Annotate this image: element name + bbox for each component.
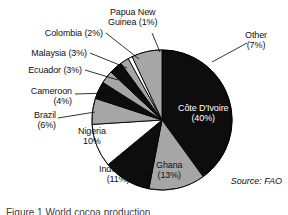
slice-label-nigeria-line2: 10% xyxy=(78,137,106,147)
callout-label-cameroon-line1: Cameroon xyxy=(31,86,72,96)
leader-line-malaysia xyxy=(90,53,127,68)
slice-label-ghana: Ghana (13%) xyxy=(156,161,183,180)
callout-label-brazil: Brazil (6%) xyxy=(6,111,56,130)
slice-label-ghana-line2: (13%) xyxy=(156,171,183,181)
slice-label-nigeria: Nigeria 10% xyxy=(78,127,106,146)
callout-label-brazil-line2: (6%) xyxy=(6,121,56,131)
slice-label-cote-divoire: Côte D'Ivoire (40%) xyxy=(178,104,228,123)
figure-caption: Figure 1 World cocoa production xyxy=(6,207,150,215)
slice-label-cote-divoire-line1: Côte D'Ivoire xyxy=(178,103,228,113)
leader-line-colombia xyxy=(106,33,139,59)
slice-label-indonesia: Indonesia (11%) xyxy=(99,165,137,184)
callout-label-cameroon-line2: (4%) xyxy=(6,97,72,107)
slice-label-ghana-line1: Ghana xyxy=(156,160,183,170)
leader-line-other xyxy=(212,43,247,62)
slice-label-indonesia-line2: (11%) xyxy=(99,175,137,185)
source-note: Source: FAO xyxy=(231,176,282,186)
callout-label-papua-new-guinea: Papua New Guinea (1%) xyxy=(108,8,157,27)
pie-chart-figure: Côte D'Ivoire (40%) Ghana (13%) Indonesi… xyxy=(0,0,288,215)
callout-label-png-line1: Papua New xyxy=(110,7,156,17)
callout-label-cameroon: Cameroon (4%) xyxy=(6,87,72,106)
callout-label-malaysia: Malaysia (3%) xyxy=(3,48,87,58)
callout-label-other: Other (7%) xyxy=(245,31,267,50)
leader-line-png xyxy=(152,33,160,52)
callout-label-ecuador: Ecuador (3%) xyxy=(3,65,82,75)
callout-label-brazil-line1: Brazil xyxy=(34,110,56,120)
callout-label-colombia-line1: Colombia (2%) xyxy=(45,28,103,38)
callout-label-malaysia-line1: Malaysia (3%) xyxy=(31,48,87,58)
callout-label-colombia: Colombia (2%) xyxy=(10,28,103,38)
callout-label-other-line2: (7%) xyxy=(245,41,267,51)
callout-label-ecuador-line1: Ecuador (3%) xyxy=(28,65,82,75)
leader-line-brazil xyxy=(58,112,95,118)
slice-label-indonesia-line1: Indonesia xyxy=(99,164,137,174)
slice-label-cote-divoire-line2: (40%) xyxy=(178,114,228,124)
slice-label-nigeria-line1: Nigeria xyxy=(78,126,106,136)
callout-label-other-line1: Other xyxy=(245,30,267,40)
callout-label-png-line2: Guinea (1%) xyxy=(108,18,157,28)
